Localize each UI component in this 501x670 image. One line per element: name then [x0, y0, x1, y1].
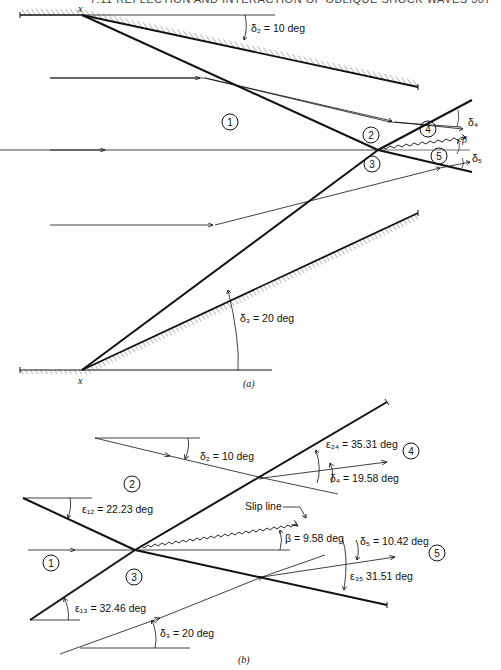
region-2-a: 2 — [363, 127, 379, 143]
region-5-b: 5 — [429, 545, 445, 561]
upper-corner-marker: x — [77, 3, 83, 14]
slip-line-label: Slip line — [245, 500, 282, 512]
lower-wall — [20, 210, 420, 376]
delta4-label-a: δ₄ — [468, 116, 478, 128]
region-4-a: 4 — [420, 121, 436, 137]
eps13-label: ε₁₃ = 32.46 deg — [75, 602, 146, 614]
region-3-b: 3 — [126, 569, 142, 585]
delta3-label-b: δ₃ = 20 deg — [160, 627, 214, 639]
delta2-arc-a — [244, 15, 246, 40]
svg-text:3: 3 — [131, 572, 137, 583]
region-5-a: 5 — [431, 148, 447, 164]
eps24-label: ε₂₄ = 35.31 deg — [326, 438, 398, 450]
delta3-label-a: δ₃ = 20 deg — [240, 312, 294, 324]
svg-text:1: 1 — [48, 558, 54, 569]
region-2-b: 2 — [124, 476, 140, 492]
beta-label-b: β = 9.58 deg — [285, 532, 344, 544]
svg-text:4: 4 — [425, 124, 431, 135]
caption-a: (a) — [243, 378, 255, 390]
region-1-b: 1 — [43, 555, 59, 571]
transmitted-shock-lower — [378, 150, 472, 172]
eps35-label: ε₃₅ 31.51 deg — [350, 570, 413, 582]
delta4-label-b: δ₄ = 19.58 deg — [330, 472, 399, 484]
region-4-b: 4 — [403, 443, 419, 459]
svg-text:1: 1 — [227, 117, 233, 128]
svg-text:5: 5 — [434, 548, 440, 559]
delta5-label-a: δ₅ — [472, 152, 482, 164]
region-3-a: 3 — [364, 156, 380, 172]
eps12-label: ε₁₂ = 22.23 deg — [82, 503, 153, 515]
flow-arrow-3 — [60, 618, 160, 654]
svg-text:2: 2 — [129, 479, 135, 490]
svg-text:3: 3 — [369, 159, 375, 170]
flow-arrow-2 — [95, 438, 170, 456]
beta-label-a: β — [461, 134, 467, 145]
delta2-label-a: δ₂ = 10 deg — [251, 22, 305, 34]
shock-interaction-diagram: x δ₂ = 10 deg x δ₃ = 20 deg — [0, 0, 501, 670]
svg-text:4: 4 — [408, 446, 414, 457]
streamline-top — [50, 78, 460, 127]
region-1-a: 1 — [222, 114, 238, 130]
lower-corner-marker: x — [77, 375, 83, 386]
caption-b: (b) — [238, 654, 250, 666]
slip-line-b — [137, 524, 298, 549]
svg-text:5: 5 — [436, 151, 442, 162]
delta5-label-b: δ₅ = 10.42 deg — [360, 535, 429, 547]
figure-a: x δ₂ = 10 deg x δ₃ = 20 deg — [0, 3, 482, 390]
svg-text:2: 2 — [368, 130, 374, 141]
delta2-label-b: δ₂ = 10 deg — [200, 450, 254, 462]
incident-shock-lower — [82, 150, 378, 370]
slip-line-leader — [283, 507, 306, 518]
figure-b: Slip line δ₂ = 10 deg ε₁₂ = 22.23 deg ε₂… — [23, 399, 445, 666]
